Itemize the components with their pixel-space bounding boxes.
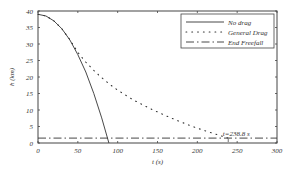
legend-item-label: No drag (227, 19, 252, 27)
x-tick-label: 150 (152, 147, 163, 155)
annotation-label: t=238.8 s (223, 130, 250, 138)
y-tick-label: 35 (25, 24, 34, 32)
y-tick-label: 25 (26, 57, 34, 65)
legend-item-label: General Drag (228, 29, 268, 37)
x-tick-label: 300 (271, 147, 283, 155)
y-tick-label: 20 (26, 74, 34, 82)
y-tick-label: 30 (25, 41, 34, 49)
y-tick-label: 40 (26, 8, 34, 16)
y-tick-label: 15 (26, 90, 34, 98)
y-axis-label: h (km) (8, 67, 16, 86)
x-tick-label: 0 (36, 147, 40, 155)
chart: 0501001502002503000510152025303540t (s)h… (0, 0, 298, 174)
series-no-drag (38, 14, 109, 143)
x-tick-label: 250 (232, 147, 243, 155)
x-tick-label: 200 (192, 147, 203, 155)
x-tick-label: 100 (112, 147, 123, 155)
y-tick-label: 10 (26, 107, 34, 115)
x-axis-label: t (s) (152, 158, 164, 166)
legend-item-label: End Freefall (227, 39, 263, 47)
y-tick-label: 0 (30, 140, 34, 148)
y-tick-label: 5 (30, 123, 34, 131)
x-tick-label: 50 (74, 147, 82, 155)
